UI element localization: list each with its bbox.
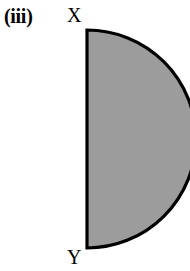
figure-container: (iii) X Y xyxy=(0,0,190,271)
semicircle-path xyxy=(87,30,190,248)
semicircle-shape xyxy=(0,0,190,271)
vertex-label-x: X xyxy=(67,5,81,25)
vertex-label-y: Y xyxy=(67,247,81,267)
